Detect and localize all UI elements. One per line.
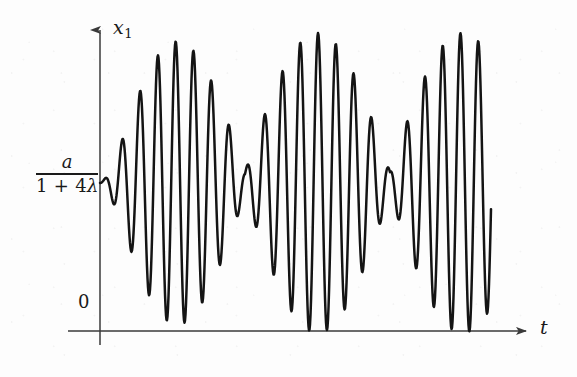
- x-axis-label: t: [540, 318, 548, 337]
- lambda-symbol: λ: [87, 175, 99, 196]
- beat-oscillation-figure: x1 t 0 a 1 + 4λ: [0, 0, 577, 377]
- oscillation-curve: [100, 33, 491, 331]
- equilibrium-denominator-prefix: 1 + 4: [36, 175, 87, 196]
- y-axis-label-symbol: x: [113, 16, 124, 38]
- y-axis-label: x1: [113, 18, 133, 40]
- equilibrium-numerator: a: [36, 153, 99, 172]
- y-axis-label-subscript: 1: [124, 26, 132, 41]
- origin-label: 0: [78, 293, 89, 311]
- equilibrium-denominator: 1 + 4λ: [36, 177, 99, 195]
- equilibrium-value-label: a 1 + 4λ: [36, 153, 99, 195]
